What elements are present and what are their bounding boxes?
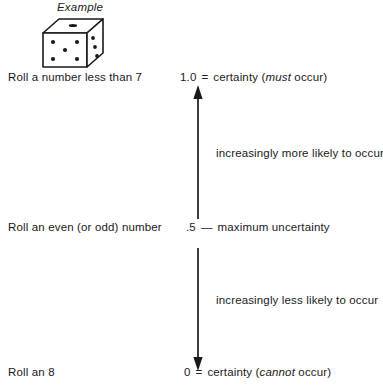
scale-value-certain: 1.0 [180,71,196,83]
decreasing-probability-arrow-icon [190,248,206,372]
scale-description-impossible-after: occur) [295,366,331,378]
scale-separator-impossible: = [191,366,208,378]
scale-entry-uncertain: .5—maximum uncertainty [186,221,330,233]
scale-description-certain-before: certainty ( [213,71,265,83]
figure-heading: Example [57,1,103,13]
scale-description-impossible-before: certainty ( [207,366,259,378]
event-label-impossible: Roll an 8 [8,366,55,378]
scale-separator-uncertain: — [196,221,218,233]
event-label-uncertain: Roll an even (or odd) number [8,221,162,233]
scale-description-uncertain-before: maximum uncertainty [218,221,330,233]
scale-separator-certain: = [196,71,213,83]
probability-scale-figure: Example Roll a number less than 7 Roll a… [0,0,383,389]
die-illustration [41,17,105,69]
scale-description-impossible-emphasis: cannot [260,366,295,378]
scale-entry-impossible: 0=certainty (cannot occur) [184,366,331,378]
event-label-certain: Roll a number less than 7 [8,71,142,83]
segment-note-less-likely: increasingly less likely to occur [216,294,378,306]
increasing-probability-arrow-icon [190,85,206,220]
scale-entry-certain: 1.0=certainty (must occur) [180,71,327,83]
scale-value-uncertain: .5 [186,221,196,233]
scale-description-certain-emphasis: must [265,71,291,83]
scale-description-certain-after: occur) [291,71,327,83]
segment-note-more-likely: increasingly more likely to occur [216,147,383,159]
